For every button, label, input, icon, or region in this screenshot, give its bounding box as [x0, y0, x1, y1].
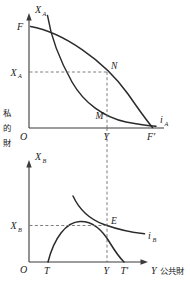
panel-A-ytick-XA: X A	[10, 67, 23, 80]
panel-A-point-M-label: M	[95, 111, 105, 121]
panel-B-curve-iB-label: i B	[148, 230, 157, 243]
private-goods-vertical-label: 私 的 財	[3, 108, 12, 148]
panel-A-curve-iA-label-sub: A	[164, 120, 169, 127]
panel-A-ytick-XA-base: X	[10, 67, 18, 78]
private-goods-label-char-3: 財	[3, 138, 12, 148]
panel-A-group: X A F X A N M O Y F' i A	[10, 4, 169, 142]
panel-B-y-axis-label-base: X	[34, 151, 42, 162]
panel-B-curve-iB-label-base: i	[148, 230, 151, 241]
panel-B-indifference-curve	[73, 196, 145, 234]
economics-diagram: X A F X A N M O Y F' i A 私 的 財	[0, 0, 190, 287]
panel-B-y-axis-label-sub: B	[43, 157, 47, 164]
panel-B-point-E-label: E	[110, 216, 117, 226]
panel-A-point-N-label: N	[110, 61, 118, 71]
panel-A-origin-label: O	[20, 131, 27, 142]
panel-B-y-axis-label: X B	[34, 151, 47, 164]
panel-B-xtick-Y-label: Y	[104, 265, 111, 276]
panel-A-y-axis-label-sub: A	[42, 10, 47, 17]
panel-B-y-axis-arrow	[26, 160, 31, 168]
panel-A-curve-iA-label-base: i	[160, 114, 163, 125]
panel-A-ytick-XA-sub: A	[17, 72, 22, 79]
panel-B-curve-iB-label-sub: B	[153, 236, 157, 243]
public-goods-axis-title: Y 公共財	[151, 265, 185, 276]
private-goods-label-char-1: 私	[3, 108, 12, 118]
panel-B-ytick-XB-sub: B	[18, 226, 22, 233]
panel-B-xtick-T-label: T	[44, 265, 51, 276]
panel-A-transformation-curve	[31, 27, 153, 128]
panel-A-y-axis-label-base: X	[34, 4, 42, 15]
panel-A-point-F-label: F	[16, 21, 24, 32]
private-goods-label-char-2: 的	[3, 123, 11, 133]
panel-B-x-axis-arrow	[141, 259, 149, 264]
panel-A-xtick-Fprime-label: F'	[146, 131, 156, 142]
panel-A-y-axis-label: X A	[34, 4, 47, 17]
panel-B-origin-label: O	[20, 264, 27, 275]
public-goods-axis-text: 公共財	[160, 266, 185, 276]
panel-B-ytick-XB-base: X	[10, 220, 18, 231]
panel-B-group: X B X B E O T Y T' i B	[10, 151, 157, 276]
panel-B-ytick-XB: X B	[10, 220, 23, 233]
panel-A-curve-iA-label: i A	[160, 114, 169, 127]
figure-root: X A F X A N M O Y F' i A 私 的 財	[0, 0, 190, 287]
panel-B-xtick-Tprime-label: T'	[121, 265, 130, 276]
public-goods-axis-symbol: Y	[151, 265, 158, 276]
panel-A-y-axis-arrow	[26, 13, 31, 21]
